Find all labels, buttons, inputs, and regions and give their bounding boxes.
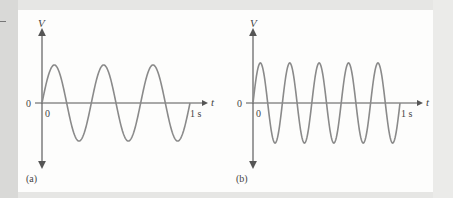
t-label-b: t xyxy=(426,96,430,108)
origin-below-a: 0 xyxy=(45,108,50,119)
end-time-b: 1 s xyxy=(401,108,413,119)
plot-b: V t 0 0 1 s (b) xyxy=(236,17,430,185)
v-label-b: V xyxy=(250,17,258,29)
end-time-a: 1 s xyxy=(190,108,202,119)
figure-svg: V t 0 0 1 s (a) V t 0 0 1 s (b) xyxy=(0,0,453,198)
t-label-a: t xyxy=(211,96,215,108)
caption-a: (a) xyxy=(26,173,37,185)
caption-b: (b) xyxy=(236,173,248,185)
origin-left-b: 0 xyxy=(237,98,242,109)
origin-below-b: 0 xyxy=(256,108,261,119)
v-label-a: V xyxy=(38,17,46,29)
plot-a: V t 0 0 1 s (a) xyxy=(26,17,215,185)
origin-left-a: 0 xyxy=(26,98,31,109)
